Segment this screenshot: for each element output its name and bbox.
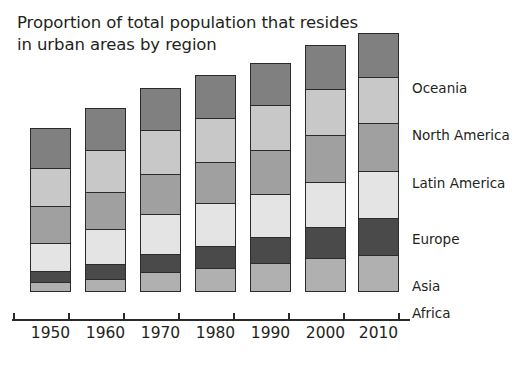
legend-label-africa: Africa [412,305,451,321]
bar-segment-europe-1980 [196,204,235,247]
axis-tick-6 [343,313,345,321]
tick-label-2000: 2000 [296,324,356,342]
tick-label-2010: 2010 [349,324,409,342]
tick-label-1970: 1970 [131,324,191,342]
bar-segment-europe-1990 [251,195,290,239]
bar-segment-africa-1960 [86,280,125,291]
bar-segment-latin-america-1970 [141,175,180,214]
axis-tick-1 [68,313,70,321]
legend-label-latin-america: Latin America [412,175,505,191]
bar-1990 [250,63,291,292]
bar-segment-europe-1960 [86,230,125,265]
bar-1980 [195,75,236,292]
bar-segment-latin-america-2000 [306,136,345,183]
bar-stack [305,45,346,292]
bar-1960 [85,108,126,292]
bar-segment-oceania-1960 [86,109,125,151]
tick-label-1950: 1950 [21,324,81,342]
bar-segment-latin-america-1960 [86,193,125,230]
bar-2000 [305,45,346,292]
chart-figure: Proportion of total population that resi… [0,0,526,365]
bar-2010 [358,33,399,292]
axis-tick-2 [123,313,125,321]
bar-segment-latin-america-1950 [31,207,70,244]
legend-label-europe: Europe [412,231,459,247]
bar-segment-asia-1970 [141,255,180,273]
bar-stack [140,88,181,292]
bar-segment-oceania-1950 [31,129,70,169]
axis-tick-7 [398,313,400,321]
axis-tick-5 [288,313,290,321]
bar-segment-asia-2000 [306,228,345,259]
bar-segment-oceania-2010 [359,34,398,78]
tick-label-1980: 1980 [186,324,246,342]
bar-segment-asia-1950 [31,272,70,283]
bar-segment-africa-2000 [306,259,345,291]
bar-segment-north-america-1980 [196,119,235,163]
bar-segment-latin-america-2010 [359,124,398,172]
x-axis-line [12,319,410,321]
bar-segment-north-america-1970 [141,131,180,175]
legend-label-asia: Asia [412,278,440,294]
bar-segment-africa-2010 [359,256,398,291]
bar-segment-africa-1980 [196,269,235,291]
bar-segment-europe-2010 [359,172,398,219]
bar-segment-asia-1980 [196,247,235,269]
bar-segment-asia-2010 [359,219,398,256]
plot-area: 1950196019701980199020002010 [0,0,410,340]
bar-stack [195,75,236,292]
bar-segment-oceania-2000 [306,46,345,90]
axis-tick-4 [233,313,235,321]
tick-label-1990: 1990 [241,324,301,342]
axis-tick-3 [178,313,180,321]
bar-stack [30,128,71,292]
bar-segment-north-america-1990 [251,106,290,151]
bar-segment-oceania-1970 [141,89,180,131]
bar-segment-north-america-2000 [306,90,345,137]
bar-1950 [30,128,71,292]
bar-segment-north-america-2010 [359,78,398,125]
bar-segment-oceania-1980 [196,76,235,119]
bar-stack [250,63,291,292]
bar-segment-europe-1970 [141,215,180,256]
bar-segment-latin-america-1980 [196,163,235,204]
bar-segment-europe-2000 [306,183,345,228]
bar-segment-latin-america-1990 [251,151,290,195]
bar-segment-north-america-1960 [86,151,125,193]
bar-segment-north-america-1950 [31,169,70,207]
bar-stack [358,33,399,292]
bar-1970 [140,88,181,292]
tick-label-1960: 1960 [76,324,136,342]
legend-label-north-america: North America [412,127,510,143]
bar-segment-europe-1950 [31,244,70,273]
bar-segment-africa-1990 [251,264,290,291]
axis-tick-0 [13,313,15,321]
bar-segment-africa-1950 [31,283,70,291]
legend-label-oceania: Oceania [412,80,467,96]
bar-stack [85,108,126,292]
bar-segment-oceania-1990 [251,64,290,106]
bar-segment-asia-1990 [251,238,290,264]
bar-segment-africa-1970 [141,273,180,291]
bar-segment-asia-1960 [86,265,125,279]
